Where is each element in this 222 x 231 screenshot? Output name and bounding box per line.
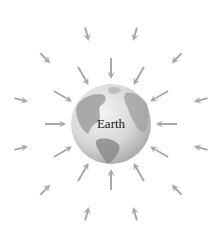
inner-field-arrow (150, 147, 168, 158)
inner-field-arrow (150, 91, 168, 102)
outer-field-arrow (40, 53, 50, 63)
outer-field-arrow (83, 207, 90, 221)
earth-label: Earth (97, 116, 126, 131)
outer-field-arrow (194, 96, 208, 103)
gravity-field-diagram: Earth (0, 0, 222, 231)
arrow-shaft (54, 91, 70, 100)
arrow-shaft (174, 187, 182, 195)
outer-field-arrow (172, 185, 182, 195)
inner-field-arrow (156, 120, 177, 127)
outer-field-arrow (132, 27, 139, 41)
outer-field-arrow (14, 145, 28, 152)
inner-field-arrow (78, 67, 89, 85)
outer-field-arrow (40, 185, 50, 195)
arrow-shaft (40, 187, 48, 195)
inner-field-arrow (45, 120, 66, 127)
outer-field-arrow (132, 207, 139, 221)
inner-field-arrow (54, 147, 72, 158)
arrow-shaft (153, 148, 169, 157)
outer-field-arrow (172, 53, 182, 63)
arrow-shaft (135, 166, 144, 182)
arrow-shaft (54, 148, 70, 157)
arrow-shaft (153, 91, 169, 100)
inner-field-arrow (134, 163, 145, 181)
inner-field-arrow (107, 58, 114, 79)
outer-field-arrow (83, 27, 90, 41)
arrow-shaft (78, 166, 87, 182)
outer-field-arrow (194, 145, 208, 152)
arrow-shaft (174, 53, 182, 61)
inner-field-arrow (107, 169, 114, 190)
inner-field-arrow (54, 91, 72, 102)
earth-globe: Earth (71, 84, 151, 164)
arrow-shaft (78, 67, 87, 83)
arrow-shaft (40, 53, 48, 61)
inner-field-arrow (134, 67, 145, 85)
arrow-shaft (135, 67, 144, 83)
inner-field-arrow (78, 163, 89, 181)
outer-field-arrow (14, 96, 28, 103)
